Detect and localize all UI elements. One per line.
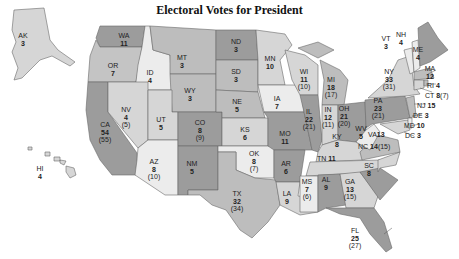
label-sc: SC8 [364,162,374,177]
label-vt: VT3 [382,35,391,50]
label-oh: OH21(20) [338,105,350,128]
state-nm [178,146,218,195]
label-hi: HI4 [37,165,44,180]
label-mn: MN10 [265,55,276,70]
label-ma: MA12 [425,65,436,80]
label-ky: KY8 [332,133,341,148]
label-id: ID4 [147,69,154,84]
label-ca: CA54(55) [99,121,111,144]
label-az: AZ8(10) [148,158,160,181]
label-ms: MS7(6) [302,178,313,201]
label-de: DE 3 [413,112,429,120]
label-ia: IA7 [274,95,281,110]
label-ri: RI 4 [427,82,440,90]
label-ok: OK8(7) [249,150,259,173]
label-wa: WA11 [118,32,129,47]
label-fl: FL25(27) [349,227,361,250]
label-ga: GA13(15) [344,178,356,201]
label-la: LA9 [283,190,292,205]
label-va: VA13 [368,131,385,139]
label-nm: NM5 [187,160,198,175]
label-al: AL9 [322,176,331,191]
label-or: OR7 [108,62,119,77]
label-ct: CT 8(7) [425,92,449,100]
label-me: ME4 [413,46,424,61]
label-mt: MT3 [177,54,187,69]
label-sd: SD3 [231,68,241,83]
label-ny: NY33(31) [383,68,395,91]
label-ak: AK3 [18,32,27,47]
state-ct [414,80,424,90]
label-co: CO8(9) [195,119,206,142]
label-il: IL22(21) [303,108,315,131]
label-wy: WY3 [184,87,195,102]
label-md: MD 10 [404,122,425,130]
label-ut: UT5 [156,116,165,131]
state-hi [28,147,76,178]
label-ks: KS6 [240,126,249,141]
label-in: IN12(11) [322,106,334,129]
label-ne: NE5 [232,98,242,113]
label-ar: AR6 [281,160,291,175]
label-nc: NC 14(15) [358,143,390,151]
label-tn: TN 11 [317,155,336,163]
label-mi: MI18(17) [325,76,337,99]
label-nd: ND3 [231,38,241,53]
label-mo: MO11 [279,130,290,145]
label-nj: NJ 15 [417,102,435,110]
label-wi: WI11(10) [298,68,310,91]
label-tx: TX32(34) [231,190,243,213]
label-pa: PA23(21) [372,97,384,120]
label-wv: WV5 [355,125,366,140]
label-nh: NH4 [396,31,406,46]
label-dc: DC 3 [405,132,421,140]
label-nv: NV4(5) [121,106,131,129]
